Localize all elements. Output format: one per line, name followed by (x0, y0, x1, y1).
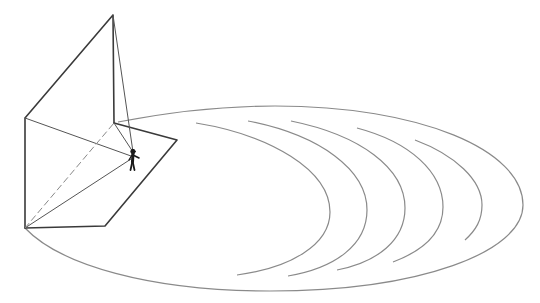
floor-ellipse (25, 106, 523, 291)
wave-arc-4 (357, 128, 443, 262)
ray-leftbottom-to-figure (25, 159, 131, 228)
hidden-edge-dashed (25, 123, 114, 228)
wave-arc-2 (248, 121, 367, 276)
wave-arc-3 (291, 121, 405, 270)
diagram-canvas (0, 0, 540, 303)
wave-arc-1 (196, 123, 330, 275)
corner-structure (25, 15, 177, 228)
wave-arc-5 (415, 140, 482, 240)
ray-apex-to-figure (113, 15, 133, 152)
diagram-svg (0, 0, 540, 303)
floor-edge (25, 123, 177, 228)
wave-arcs (196, 121, 482, 276)
back-wall-edge (25, 15, 114, 228)
